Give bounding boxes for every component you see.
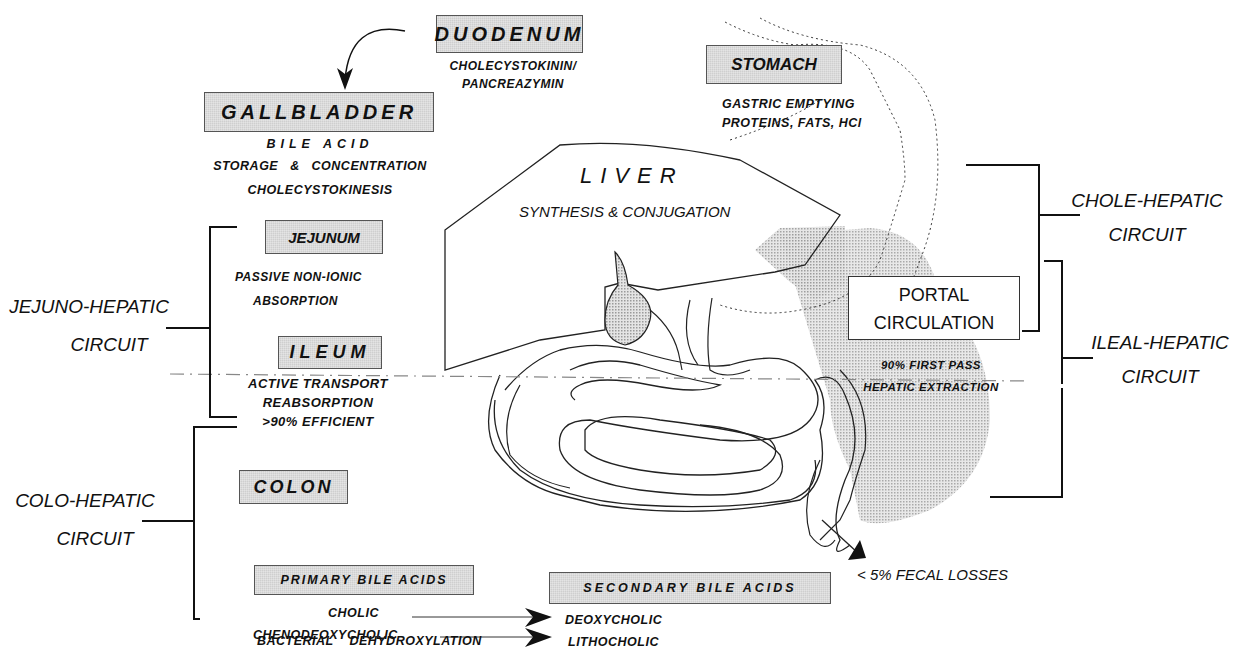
jejuno-line-1: JEJUNO-HEPATIC bbox=[4, 288, 174, 326]
colo-hepatic-circuit-label: COLO-HEPATIC CIRCUIT bbox=[10, 482, 160, 558]
jejunum-note-1: PASSIVE NON-IONIC bbox=[235, 265, 362, 289]
jejuno-line-2: CIRCUIT bbox=[4, 326, 174, 364]
gallbladder-note-1: BILE ACID bbox=[170, 133, 470, 155]
portal-note-2: HEPATIC EXTRACTION bbox=[836, 376, 1026, 398]
stomach-note-2: PROTEINS, FATS, HCl bbox=[722, 114, 862, 133]
duodenum-note-2: PANCREAZYMIN bbox=[448, 75, 578, 93]
stomach-label: STOMACH bbox=[706, 45, 842, 84]
ileal-hepatic-circuit-label: ILEAL-HEPATIC CIRCUIT bbox=[1075, 326, 1245, 394]
ileum-label: ILEUM bbox=[278, 336, 382, 369]
ileal-line-2: CIRCUIT bbox=[1075, 360, 1245, 394]
duodenum-note-1: CHOLECYSTOKININ/ bbox=[448, 57, 578, 75]
secondary-acid-lithocholic: LITHOCHOLIC bbox=[568, 635, 659, 649]
fecal-losses-label: < 5% FECAL LOSSES bbox=[857, 566, 1008, 583]
colon-label: COLON bbox=[239, 470, 348, 504]
stomach-note-1: GASTRIC EMPTYING bbox=[722, 95, 862, 114]
chole-line-1: CHOLE-HEPATIC bbox=[1062, 184, 1232, 218]
jejunum-notes: PASSIVE NON-IONIC ABSORPTION bbox=[235, 265, 362, 313]
gallbladder-notes: BILE ACID STORAGE & CONCENTRATION CHOLEC… bbox=[170, 133, 470, 201]
ileum-note-2: REABSORPTION bbox=[228, 393, 408, 412]
jejuno-bracket bbox=[166, 227, 237, 417]
primary-bile-acids-label: PRIMARY BILE ACIDS bbox=[254, 565, 474, 595]
portal-note-1: 90% FIRST PASS bbox=[836, 354, 1026, 376]
portal-label-2: CIRCULATION bbox=[849, 309, 1019, 337]
colo-line-2: CIRCUIT bbox=[10, 520, 160, 558]
jejunum-note-2: ABSORPTION bbox=[235, 289, 362, 313]
liver-note: SYNTHESIS & CONJUGATION bbox=[519, 203, 730, 220]
portal-circulation-box: PORTAL CIRCULATION bbox=[848, 276, 1020, 340]
gallbladder-note-2: STORAGE & CONCENTRATION bbox=[170, 155, 470, 177]
liver-label: LIVER bbox=[580, 163, 684, 189]
chole-hepatic-circuit-label: CHOLE-HEPATIC CIRCUIT bbox=[1062, 184, 1232, 252]
gallbladder-label: GALLBLADDER bbox=[204, 92, 434, 132]
anatomy-drawing bbox=[0, 0, 1254, 665]
ileum-note-1: ACTIVE TRANSPORT bbox=[228, 374, 408, 393]
primary-acid-chenodeoxycholic: CHENODEOXYCHOLIC bbox=[253, 628, 398, 642]
jejunum-label: JEJUNUM bbox=[265, 220, 383, 254]
primary-acid-cholic: CHOLIC bbox=[328, 606, 379, 620]
duodenum-notes: CHOLECYSTOKININ/ PANCREAZYMIN bbox=[448, 57, 578, 93]
portal-notes: 90% FIRST PASS HEPATIC EXTRACTION bbox=[836, 354, 1026, 398]
stomach-notes: GASTRIC EMPTYING PROTEINS, FATS, HCl bbox=[722, 95, 862, 133]
colon-outline bbox=[489, 375, 855, 551]
ileum-notes: ACTIVE TRANSPORT REABSORPTION >90% EFFIC… bbox=[228, 374, 408, 431]
colo-line-1: COLO-HEPATIC bbox=[10, 482, 160, 520]
secondary-acid-deoxycholic: DEOXYCHOLIC bbox=[565, 613, 662, 627]
secondary-bile-acids-label: SECONDARY BILE ACIDS bbox=[549, 572, 831, 604]
portal-label-1: PORTAL bbox=[849, 281, 1019, 309]
duodenum-label: DUODENUM bbox=[436, 15, 583, 53]
gallbladder-shape bbox=[605, 252, 651, 345]
jejuno-hepatic-circuit-label: JEJUNO-HEPATIC CIRCUIT bbox=[4, 288, 174, 364]
portal-arrow-shade bbox=[755, 226, 845, 300]
chole-line-2: CIRCUIT bbox=[1062, 218, 1232, 252]
ileal-line-1: ILEAL-HEPATIC bbox=[1075, 326, 1245, 360]
gallbladder-note-3: CHOLECYSTOKINESIS bbox=[170, 179, 470, 201]
ileum-note-3: >90% EFFICIENT bbox=[228, 412, 408, 431]
